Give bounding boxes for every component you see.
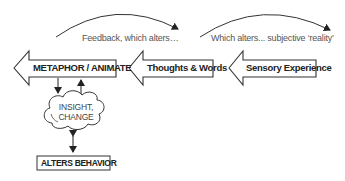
- sensory-label: Sensory Experience: [246, 62, 331, 73]
- thoughts-label: Thoughts & Words: [147, 62, 227, 73]
- cloud-label: INSIGHT, CHANGE: [52, 102, 100, 122]
- diagram-shapes: [0, 0, 345, 181]
- cloud-line-2: CHANGE: [52, 112, 100, 122]
- behavior-label: ALTERS BEHAVIOR: [41, 158, 116, 168]
- feedback-caption: Feedback, which alters…: [82, 33, 178, 43]
- cloud-line-1: INSIGHT,: [52, 102, 100, 112]
- reality-caption: Which alters... subjective ‘reality’: [211, 33, 334, 43]
- metaphor-label: METAPHOR / ANIMATE: [33, 62, 131, 73]
- diagram-canvas: Feedback, which alters… Which alters... …: [0, 0, 345, 181]
